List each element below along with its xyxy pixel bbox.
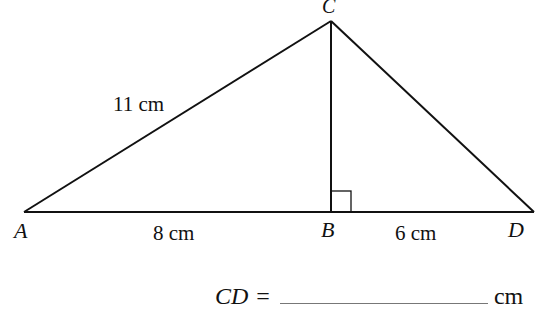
answer-line: CD = cm (215, 283, 523, 310)
length-label-ac: 11 cm (113, 92, 164, 116)
length-label-bd: 6 cm (395, 221, 436, 245)
triangle-diagram: C A B D 11 cm 8 cm 6 cm (0, 0, 543, 311)
vertex-label-c: C (322, 0, 336, 17)
right-angle-marker (331, 191, 351, 212)
vertex-label-a: A (12, 218, 28, 243)
answer-blank[interactable] (280, 285, 488, 304)
answer-variable: CD (215, 283, 248, 310)
equals-sign: = (256, 283, 270, 310)
vertex-label-b: B (321, 217, 334, 242)
vertex-label-d: D (507, 217, 524, 242)
segment-ac (24, 21, 331, 212)
answer-unit: cm (494, 283, 523, 310)
segment-cd (331, 21, 534, 212)
length-label-ab: 8 cm (153, 221, 194, 245)
